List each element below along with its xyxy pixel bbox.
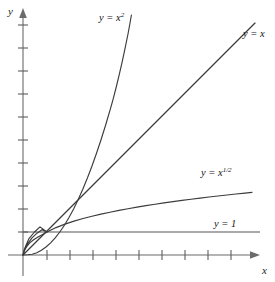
curve-label-linear: y = x [243, 29, 265, 40]
x-axis-arrowhead [250, 251, 260, 259]
curve-label-sqrt-text: y = x [201, 167, 223, 178]
curve-label-square-text: y = x [99, 12, 121, 23]
curve-label-sqrt-exponent: 1/2 [223, 166, 232, 174]
y-axis-arrowhead [19, 8, 27, 18]
plot-canvas [0, 0, 275, 282]
curve-label-square: y = x2 [99, 13, 124, 24]
curve-label-sqrt: y = x1/2 [201, 168, 232, 179]
curve-label-square-exponent: 2 [121, 11, 125, 19]
function-plot-figure: y x y = x2 y = x y = x1/2 y = 1 [0, 0, 275, 282]
curve-square [23, 15, 131, 255]
y-axis-label: y [8, 6, 13, 17]
curve-label-constant: y = 1 [214, 219, 236, 230]
x-axis-label: x [262, 265, 267, 276]
